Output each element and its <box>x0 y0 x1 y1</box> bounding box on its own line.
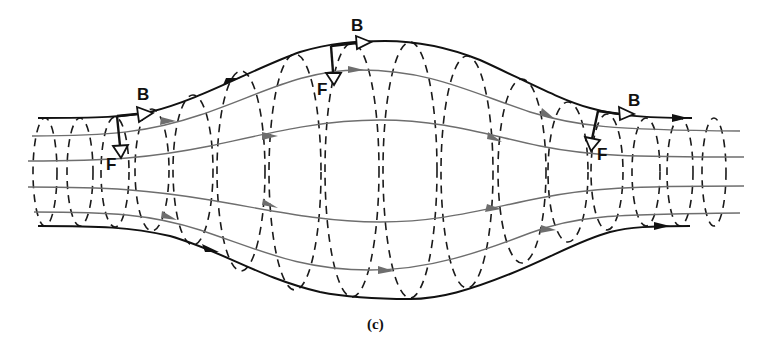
arrow-icon <box>672 114 688 122</box>
current-loop <box>217 71 265 271</box>
force-vector-icon <box>326 73 341 85</box>
force-label-F: F <box>597 145 607 164</box>
field-label-B: B <box>628 91 640 110</box>
arrow-icon <box>348 66 364 73</box>
figure-caption: (c) <box>367 316 384 333</box>
current-loop <box>632 118 660 226</box>
current-loop <box>441 56 493 288</box>
field-label-B: B <box>137 85 149 104</box>
field-vector-icon <box>356 36 371 49</box>
current-loop <box>269 54 321 290</box>
flux-tube-diagram: B F B F B F (c) <box>0 0 764 364</box>
arrow-icon <box>161 211 177 220</box>
force-label-F: F <box>106 155 116 174</box>
arrow-icon <box>378 266 394 274</box>
field-label-B: B <box>351 16 363 35</box>
arrow-icon <box>654 222 670 230</box>
current-loops <box>33 42 726 298</box>
boundary-field-lines <box>38 41 692 299</box>
current-loop <box>548 102 588 242</box>
bottom-boundary <box>38 226 690 299</box>
inner-arrows <box>160 66 556 274</box>
arrow-icon <box>485 204 501 212</box>
current-loop <box>591 114 623 230</box>
current-loop <box>667 118 693 226</box>
current-loop <box>33 118 57 226</box>
annotation-top: B F <box>317 16 371 99</box>
boundary-arrows <box>202 78 688 252</box>
arrow-icon <box>202 244 219 252</box>
current-loop <box>702 118 726 226</box>
current-loop <box>383 42 437 298</box>
force-label-F: F <box>317 80 327 99</box>
